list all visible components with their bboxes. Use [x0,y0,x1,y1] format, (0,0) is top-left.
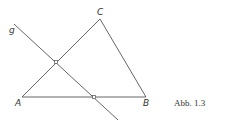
triangle-diagram: g C A B Abb. 1.3 [0,0,227,127]
label-g: g [9,25,15,35]
side-bc [100,19,146,97]
label-a: A [14,98,21,108]
label-b: B [143,98,149,108]
line-g [14,24,118,120]
intersection-marker-ac [55,61,58,64]
figure-caption: Abb. 1.3 [174,98,206,108]
intersection-marker-ab [93,96,96,99]
label-c: C [97,7,104,17]
side-ca [22,19,100,97]
